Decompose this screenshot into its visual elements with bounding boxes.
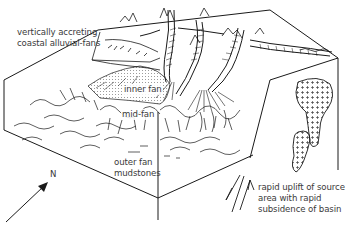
label-coastal-fans: vertically accreting coastal alluvial-fa… [17, 27, 100, 49]
north-arrow-icon [6, 182, 48, 222]
label-outer-fan-line2: mudstones [114, 168, 161, 179]
small-pluton [292, 131, 310, 172]
coastal-fans [92, 32, 160, 70]
label-outer-fan: outer fan mudstones [114, 157, 161, 179]
label-uplift: rapid uplift of source area with rapid s… [258, 182, 345, 215]
label-outer-fan-line1: outer fan [114, 157, 161, 168]
label-inner-fan: inner fan [123, 84, 163, 95]
label-uplift-line2: area with rapid [258, 193, 345, 204]
label-uplift-line3: subsidence of basin [258, 204, 345, 215]
outer-fan-zone [14, 115, 240, 158]
fault-arrows [226, 175, 254, 212]
label-coastal-line2: coastal alluvial-fans [17, 38, 100, 49]
label-mid-fan: mid-fan [121, 109, 155, 120]
label-coastal-line1: vertically accreting [17, 27, 100, 38]
channel-hatching [166, 28, 317, 66]
pluton-intrusions [292, 78, 332, 172]
label-north: N [50, 169, 56, 180]
label-uplift-line1: rapid uplift of source [258, 182, 345, 193]
